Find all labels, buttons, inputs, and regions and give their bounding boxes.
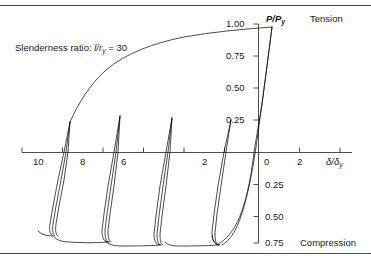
cycle-3-loop bbox=[102, 116, 120, 242]
compression-region-label: Compression bbox=[300, 238, 356, 248]
x-tick-label-8: 8 bbox=[80, 157, 85, 167]
x-tick-label-6: 6 bbox=[121, 157, 126, 167]
y-tick-label-neg-0-50: 0.50 bbox=[265, 212, 284, 222]
x-tick-label-2: 2 bbox=[202, 157, 207, 167]
slenderness-value: = 30 bbox=[106, 42, 127, 53]
cycle-3-loop-inner bbox=[105, 116, 120, 242]
x-tick-label-10: 10 bbox=[33, 157, 44, 167]
cycle-4-loop bbox=[50, 122, 70, 236]
slenderness-prefix: Slenderness ratio: bbox=[15, 42, 94, 53]
cycle-2-reload-branch bbox=[160, 118, 172, 245]
x-axis-title: δ/δy bbox=[326, 157, 343, 167]
tension-region-label: Tension bbox=[310, 14, 343, 24]
x-axis-ticks bbox=[22, 148, 340, 153]
y-tick-label-neg-0-75: 0.75 bbox=[265, 238, 284, 248]
cycle-2-plateau bbox=[105, 241, 160, 246]
x-tick-label-0: 0 bbox=[264, 157, 269, 167]
y-tick-label-0-50: 0.50 bbox=[226, 83, 245, 93]
cycle-1-loop-inner bbox=[215, 120, 231, 245]
figure-container: 1.00 0.75 0.50 0.25 0.25 0.50 0.75 10 8 … bbox=[0, 0, 371, 268]
cycle-2-loop-inner bbox=[157, 118, 172, 245]
y-axis-title: P/Py bbox=[266, 14, 285, 24]
y-tick-label-neg-0-25: 0.25 bbox=[265, 180, 284, 190]
slenderness-subscript: y bbox=[102, 47, 106, 54]
y-tick-label-0-25: 0.25 bbox=[226, 115, 245, 125]
cycle-3-plateau bbox=[54, 237, 108, 243]
plot-svg bbox=[0, 0, 371, 268]
y-tick-label-0-75: 0.75 bbox=[226, 51, 245, 61]
x-axis-title-subscript: y bbox=[339, 161, 343, 168]
cycle-4-loop-inner bbox=[53, 122, 70, 236]
y-tick-label-1-00: 1.00 bbox=[226, 19, 245, 29]
x-tick-label-2-right: 2 bbox=[297, 157, 302, 167]
cycle-2-loop bbox=[154, 118, 172, 245]
cycle-1-plateau bbox=[165, 242, 218, 246]
slenderness-ratio-annotation: Slenderness ratio: l/ry = 30 bbox=[15, 43, 127, 53]
y-axis-title-subscript: y bbox=[281, 18, 285, 25]
